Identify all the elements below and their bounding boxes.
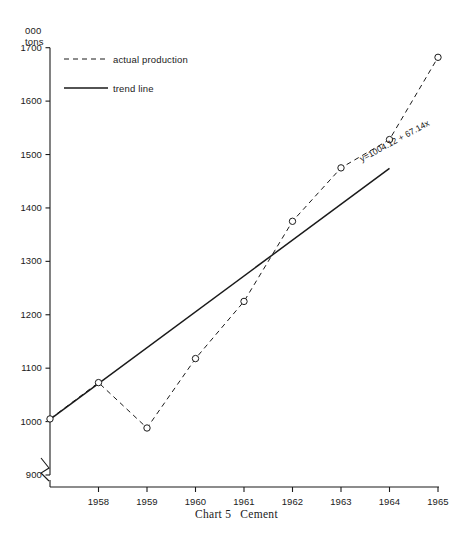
data-point-markers — [47, 54, 441, 431]
y-axis-tick-label: 1600 — [2, 95, 42, 106]
axes-group — [41, 48, 439, 492]
y-axis-tick-label: 1000 — [2, 416, 42, 427]
y-axis-tick-label: 1300 — [2, 255, 42, 266]
x-axis-tick-label: 1962 — [271, 496, 315, 507]
legend-symbols — [64, 59, 108, 88]
legend-label-actual-production: actual production — [113, 54, 188, 65]
y-axis-tick-label: 1100 — [2, 362, 42, 373]
caption-subject: Cement — [240, 508, 278, 520]
chart-plot-area — [0, 0, 473, 537]
legend-label-trend-line: trend line — [113, 83, 154, 94]
y-axis-tick-label: 1700 — [2, 42, 42, 53]
chart-caption: Chart 5Cement — [0, 508, 473, 520]
x-axis-tick-label: 1963 — [319, 496, 363, 507]
y-axis-tick-label: 1500 — [2, 149, 42, 160]
y-axis-tick-label: 900 — [2, 469, 42, 480]
x-axis-tick-label: 1959 — [125, 496, 169, 507]
chart-container: 000 tons 1700160015001400130012001100100… — [0, 0, 473, 537]
x-axis-tick-label: 1964 — [368, 496, 412, 507]
actual-production-series — [50, 57, 438, 428]
x-axis-tick-label: 1965 — [416, 496, 460, 507]
y-axis-tick-label: 1200 — [2, 309, 42, 320]
x-axis-tick-label: 1960 — [174, 496, 218, 507]
y-axis-tick-label: 1400 — [2, 202, 42, 213]
x-axis-tick-label: 1958 — [77, 496, 121, 507]
x-axis-tick-label: 1961 — [222, 496, 266, 507]
caption-number: Chart 5 — [195, 508, 231, 520]
